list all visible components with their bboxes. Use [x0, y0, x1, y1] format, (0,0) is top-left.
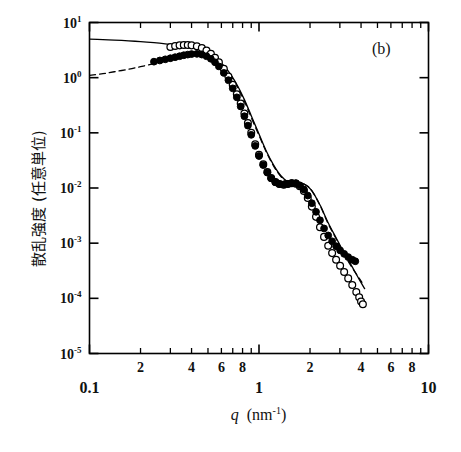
data-point [229, 85, 236, 92]
x-axis-minor-tick-label: 8 [398, 360, 426, 376]
x-axis-decade-label: 0.1 [70, 379, 110, 397]
data-point [345, 275, 352, 282]
data-point [329, 250, 336, 257]
axis-ticks [90, 23, 429, 354]
x-axis-minor-tick-label: 8 [229, 360, 257, 376]
x-axis-decade-label: 10 [409, 379, 449, 397]
data-point [248, 131, 255, 138]
x-axis-decade-label: 1 [239, 379, 279, 397]
data-point [317, 217, 324, 224]
data-point [237, 103, 244, 110]
x-axis-minor-tick-label: 4 [347, 360, 375, 376]
x-axis-unit-open: ( [243, 406, 252, 423]
data-point [233, 94, 240, 101]
plot-frame [90, 23, 429, 354]
data-point [352, 258, 359, 265]
series-filled-circles [151, 50, 359, 264]
panel-label: (b) [372, 40, 391, 58]
dashed-model-line [90, 54, 362, 282]
data-point [216, 63, 223, 70]
data-point [220, 70, 227, 77]
data-point [359, 301, 366, 308]
x-axis-minor-tick-label: 2 [296, 360, 324, 376]
data-point [349, 282, 356, 289]
y-axis-tick-label: 10-5 [36, 345, 82, 363]
x-axis-label: q (nm-1) [89, 405, 428, 424]
y-axis-tick-label: 10-3 [36, 234, 82, 252]
data-point [260, 162, 267, 169]
data-point [252, 142, 259, 149]
data-layer [90, 39, 367, 308]
data-point [321, 225, 328, 232]
data-point [313, 208, 320, 215]
y-axis-tick-label: 10-4 [36, 289, 82, 307]
data-point [241, 113, 248, 120]
data-point [300, 186, 307, 193]
data-point [308, 200, 315, 207]
x-axis-unit-exponent: -1 [273, 405, 281, 416]
x-axis-unit-close: ) [281, 406, 286, 423]
y-axis-tick-label: 101 [36, 14, 82, 32]
figure-panel-b: 散乱強度 (任意単位) q (nm-1) (b) 10110010-110-21… [0, 0, 461, 452]
data-point [256, 153, 263, 160]
y-axis-tick-label: 10-2 [36, 179, 82, 197]
figure-caption-fragment [6, 441, 456, 452]
y-axis-label: 散乱強度 (任意単位) [27, 84, 48, 314]
x-axis-unit: nm [252, 406, 272, 423]
y-axis-tick-label: 100 [36, 69, 82, 87]
data-point [337, 262, 344, 269]
data-point [245, 122, 252, 129]
x-axis-symbol: q [231, 406, 239, 423]
x-axis-minor-tick-label: 2 [127, 360, 155, 376]
y-axis-tick-label: 10-1 [36, 124, 82, 142]
x-axis-minor-tick-label: 4 [178, 360, 206, 376]
data-point [304, 192, 311, 199]
data-point [225, 77, 232, 84]
data-point [341, 269, 348, 276]
